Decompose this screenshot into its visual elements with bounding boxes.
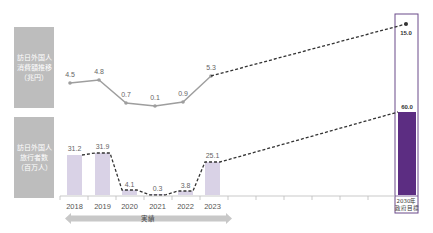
spending-markers xyxy=(68,74,213,108)
year-2023: 2023 xyxy=(204,202,221,211)
year-2020: 2020 xyxy=(121,202,138,211)
spending-target-marker xyxy=(404,22,408,26)
visitor-value-2018: 31.2 xyxy=(68,145,82,152)
visitor-value-2019: 31.9 xyxy=(96,143,110,150)
visitor-value-2020: 4.1 xyxy=(125,181,135,188)
actual-period-label: 実績 xyxy=(141,214,155,223)
spending-target-dashed-line xyxy=(211,24,406,76)
chart-canvas: 4.5 4.8 0.7 0.1 0.9 5.3 15.0 31.2 31.9 4… xyxy=(0,0,433,233)
year-2021: 2021 xyxy=(149,202,166,211)
spending-value-2021: 0.1 xyxy=(150,94,160,101)
spending-line xyxy=(70,76,211,106)
visitor-value-2023: 25.1 xyxy=(206,152,220,159)
year-2022: 2022 xyxy=(177,202,194,211)
target-label-line1: 2030年 xyxy=(397,197,417,205)
spending-value-2023: 5.3 xyxy=(206,64,216,71)
visitor-target-bar xyxy=(398,112,416,195)
x-axis-ticks xyxy=(60,196,368,200)
visitor-value-2022: 3.8 xyxy=(181,182,191,189)
year-2019: 2019 xyxy=(94,202,111,211)
visitor-target-value: 60.0 xyxy=(401,104,413,110)
spending-value-2018: 4.5 xyxy=(65,71,75,78)
spending-value-2019: 4.8 xyxy=(94,68,104,75)
target-label-line2: 政府目標 xyxy=(395,204,419,212)
spending-value-2020: 0.7 xyxy=(121,91,131,98)
year-2018: 2018 xyxy=(66,202,83,211)
spending-target-value: 15.0 xyxy=(400,30,412,36)
visitor-value-2021: 0.3 xyxy=(153,185,163,192)
spending-value-2022: 0.9 xyxy=(178,90,188,97)
visitor-bars xyxy=(67,153,220,195)
